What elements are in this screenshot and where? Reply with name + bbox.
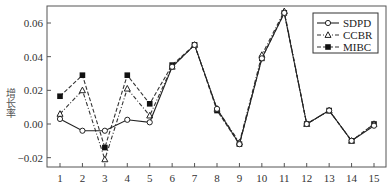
x-tick-label: 15 (369, 172, 381, 184)
square-marker-icon (147, 101, 153, 107)
circle-marker-icon (80, 128, 85, 133)
circle-marker-icon (170, 64, 175, 69)
x-tick-label: 9 (237, 172, 243, 184)
y-tick-label: 0.00 (24, 118, 44, 130)
triangle-marker-icon (124, 85, 130, 91)
circle-marker-icon (282, 10, 287, 15)
circle-marker-icon (371, 123, 376, 128)
x-tick-label: 8 (214, 172, 220, 184)
legend: SDPDCCBRMIBC (313, 13, 378, 53)
circle-marker-icon (325, 20, 330, 25)
circle-marker-icon (57, 116, 62, 121)
y-tick-label: 0.02 (24, 84, 43, 96)
x-tick-label: 5 (147, 172, 153, 184)
circle-marker-icon (192, 42, 197, 47)
x-tick-label: 7 (192, 172, 198, 184)
x-tick-label: 2 (80, 172, 86, 184)
legend-label-sdpd: SDPD (343, 17, 371, 29)
y-tick-label: −0.02 (18, 152, 43, 164)
x-tick-label: 6 (169, 172, 175, 184)
circle-marker-icon (259, 56, 264, 61)
circle-marker-icon (214, 106, 219, 111)
x-tick-label: 13 (324, 172, 336, 184)
square-marker-icon (57, 93, 63, 99)
x-tick-label: 10 (256, 172, 268, 184)
y-tick-label: 0.04 (24, 51, 44, 63)
square-marker-icon (325, 44, 331, 50)
y-tick-label: 0.06 (24, 17, 44, 29)
x-tick-label: 14 (346, 172, 358, 184)
circle-marker-icon (102, 128, 107, 133)
x-tick-label: 1 (57, 172, 63, 184)
legend-label-ccbr: CCBR (343, 29, 373, 41)
circle-marker-icon (237, 142, 242, 147)
line-chart: −0.020.000.020.040.061234567891011121314… (0, 0, 389, 188)
x-tick-label: 12 (301, 172, 312, 184)
square-marker-icon (124, 72, 130, 78)
square-marker-icon (102, 145, 108, 151)
circle-marker-icon (125, 117, 130, 122)
triangle-marker-icon (102, 156, 108, 162)
triangle-marker-icon (79, 87, 85, 93)
legend-label-mibc: MIBC (343, 41, 371, 53)
circle-marker-icon (147, 120, 152, 125)
y-axis-label: 增长率 (5, 87, 16, 119)
x-tick-label: 11 (279, 172, 290, 184)
square-marker-icon (80, 72, 86, 78)
circle-marker-icon (349, 138, 354, 143)
x-tick-label: 3 (102, 172, 108, 184)
circle-marker-icon (327, 108, 332, 113)
circle-marker-icon (304, 121, 309, 126)
x-tick-label: 4 (125, 172, 131, 184)
